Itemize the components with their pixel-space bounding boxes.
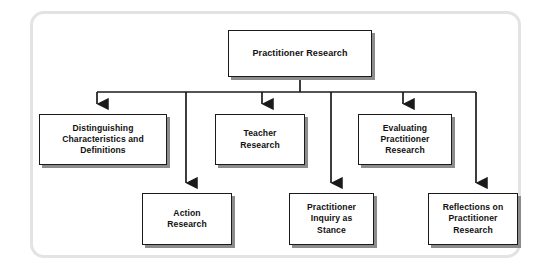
- node-practitioner-inquiry-as-stance[interactable]: Practitioner Inquiry as Stance: [289, 193, 374, 245]
- node-label: Evaluating Practitioner Research: [378, 123, 433, 157]
- node-practitioner-research[interactable]: Practitioner Research: [228, 30, 372, 77]
- node-label: Practitioner Inquiry as Stance: [304, 202, 359, 236]
- node-label: Reflections on Practitioner Research: [440, 202, 507, 236]
- node-label: Action Research: [164, 208, 210, 230]
- node-evaluating-practitioner-research[interactable]: Evaluating Practitioner Research: [358, 114, 452, 165]
- node-teacher-research[interactable]: Teacher Research: [215, 114, 305, 165]
- node-reflections-on-practitioner-research[interactable]: Reflections on Practitioner Research: [428, 193, 518, 245]
- node-label: Teacher Research: [237, 128, 283, 150]
- diagram-canvas: Practitioner Research Distinguishing Cha…: [0, 0, 548, 271]
- node-label: Distinguishing Characteristics and Defin…: [59, 123, 147, 157]
- node-action-research[interactable]: Action Research: [142, 193, 232, 245]
- node-label: Practitioner Research: [249, 48, 350, 59]
- node-distinguishing-characteristics-and-definitions[interactable]: Distinguishing Characteristics and Defin…: [39, 114, 167, 165]
